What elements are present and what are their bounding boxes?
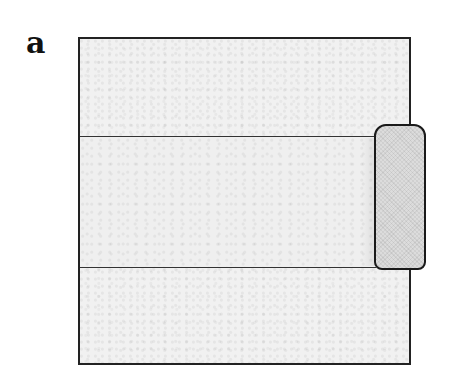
roller-cylinder — [374, 124, 426, 270]
panel-label: a — [26, 25, 45, 60]
rolled-strip-band — [80, 136, 376, 268]
